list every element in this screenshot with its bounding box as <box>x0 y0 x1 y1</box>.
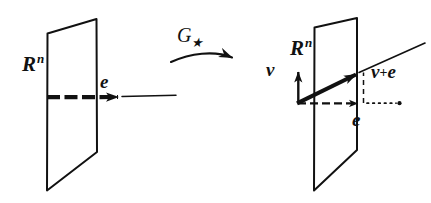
left-ray-extension <box>122 95 176 96</box>
left-plane-label-exponent: n <box>37 51 44 66</box>
right-plane-label: Rn <box>290 36 312 59</box>
map-curved-arrow <box>171 53 232 62</box>
vector-v-plus-e-arrow <box>297 75 356 104</box>
left-plane-outline <box>47 19 97 191</box>
diagram-canvas <box>0 0 431 203</box>
vector-v-plus-e-label-right: e <box>387 61 395 82</box>
map-label-star: ★ <box>191 35 203 50</box>
figure-root: Rn e G★ Rn v v+e e <box>0 0 431 203</box>
guide-end-dot <box>397 101 401 105</box>
vector-v-label: v <box>266 60 274 79</box>
left-vector-e-label: e <box>100 72 108 91</box>
vector-v-plus-e-label: v+e <box>371 62 396 81</box>
left-vector-e-group <box>47 95 176 97</box>
left-plane-group <box>47 19 97 191</box>
map-arrow-group <box>171 53 232 62</box>
right-plane-label-base: R <box>290 36 304 60</box>
right-plane-label-exponent: n <box>305 35 312 50</box>
left-plane-label: Rn <box>22 52 44 75</box>
map-label-base: G <box>177 24 191 46</box>
map-label: G★ <box>177 25 203 49</box>
right-vector-e-label: e <box>352 110 360 129</box>
right-vectors-group <box>297 43 425 105</box>
left-plane-label-base: R <box>22 52 36 76</box>
